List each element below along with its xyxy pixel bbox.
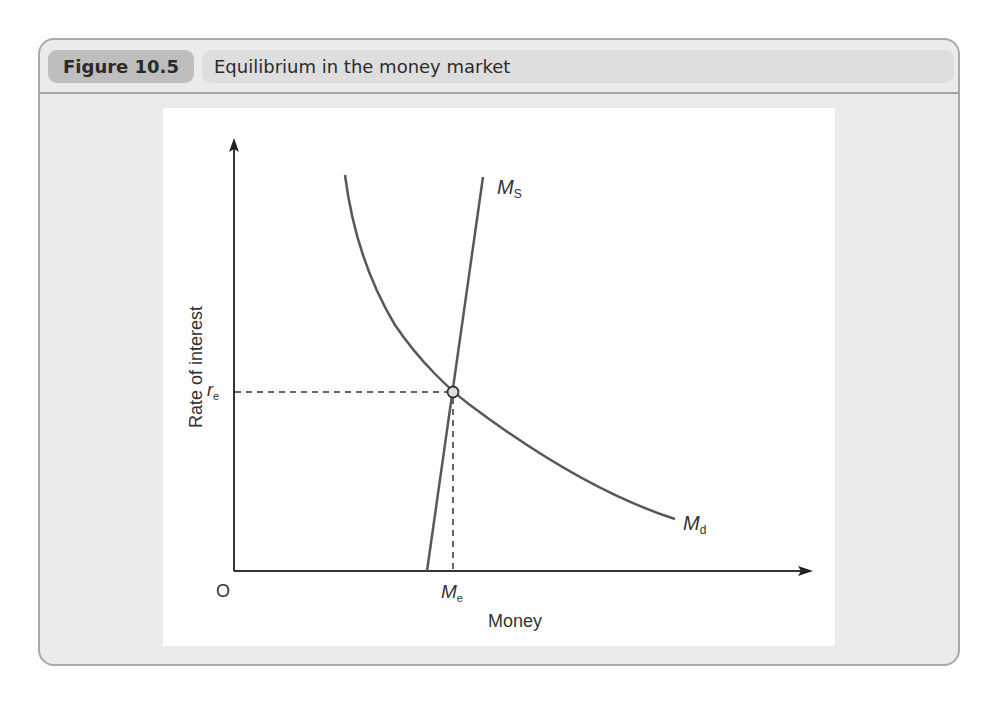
md-curve (345, 175, 675, 519)
ms-label: MS (497, 176, 522, 201)
x-axis-label: Money (488, 611, 542, 631)
money-market-chart: MS Md re Me O Money Rate of interest (0, 0, 993, 710)
equilibrium-point (448, 387, 459, 398)
origin-label: O (216, 581, 230, 601)
x-axis (234, 566, 813, 576)
y-axis (229, 138, 239, 571)
re-label: re (207, 380, 219, 402)
y-axis-label: Rate of interest (186, 306, 206, 428)
me-label: Me (441, 581, 463, 604)
md-label: Md (683, 512, 706, 537)
